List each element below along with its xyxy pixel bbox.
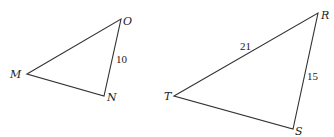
vertex-label-n: N	[106, 91, 117, 104]
diagram-canvas: M O N 10 T R S 21 15	[0, 0, 334, 137]
vertex-label-m: M	[9, 68, 22, 81]
triangle-mno: M O N 10	[9, 15, 132, 104]
side-label-rs: 15	[307, 70, 319, 82]
vertex-label-o: O	[123, 15, 132, 28]
side-label-tr: 21	[240, 40, 251, 52]
triangle-mno-outline	[27, 19, 121, 96]
vertex-label-t: T	[164, 90, 173, 103]
vertex-label-r: R	[320, 9, 329, 22]
vertex-label-s: S	[295, 125, 303, 137]
triangle-trs-outline	[174, 13, 318, 129]
side-label-on: 10	[116, 53, 128, 65]
triangle-trs: T R S 21 15	[164, 9, 329, 137]
